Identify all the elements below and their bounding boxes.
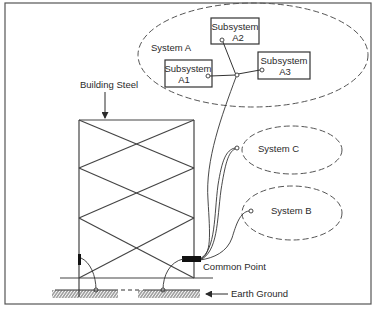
subsystem-a3: Subsystem A3 — [258, 52, 310, 79]
system-c-group: System C — [235, 126, 342, 174]
system-a-label: System A — [151, 42, 192, 53]
system-c-label: System C — [258, 143, 299, 154]
system-b-group: System B — [242, 186, 342, 240]
common-point-label: Common Point — [203, 261, 266, 272]
subsystem-a1: Subsystem A1 — [165, 60, 213, 87]
system-a-junction — [235, 73, 239, 77]
subsystem-a3-label: Subsystem — [261, 55, 308, 66]
earth-ground — [52, 290, 200, 298]
common-point-bar — [182, 256, 201, 262]
subsystem-a2-label: Subsystem — [212, 21, 259, 32]
system-b-terminal — [249, 209, 253, 213]
earth-ground-label: Earth Ground — [231, 288, 288, 299]
system-a-group: System A Subsystem A1 Subsystem A2 Subsy… — [138, 3, 368, 107]
left-bond-strap — [78, 254, 81, 265]
system-a-star-wiring — [210, 42, 260, 76]
subsystem-a2-id: A2 — [232, 32, 244, 43]
building-steel-label: Building Steel — [80, 79, 138, 90]
system-c-terminal — [235, 146, 239, 150]
building-steel-frame — [60, 120, 213, 297]
terminal-a3 — [260, 68, 264, 72]
subsystem-a2: Subsystem A2 — [211, 18, 259, 44]
subsystem-a3-id: A3 — [279, 66, 291, 77]
left-bond-wire — [81, 258, 96, 290]
ground-wires — [200, 77, 249, 260]
system-b-label: System B — [271, 205, 312, 216]
subsystem-a1-label: Subsystem — [165, 63, 212, 74]
subsystem-a1-id: A1 — [178, 74, 190, 85]
terminal-a1 — [206, 74, 210, 78]
terminal-a2 — [220, 38, 224, 42]
grounding-diagram: System A Subsystem A1 Subsystem A2 Subsy… — [0, 0, 375, 310]
